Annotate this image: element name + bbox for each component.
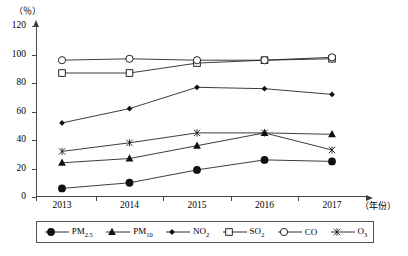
legend-swatch-O3 xyxy=(329,226,357,238)
x-tick xyxy=(36,197,37,201)
legend-item-CO[interactable]: CO xyxy=(276,226,318,238)
marker-filled-circle xyxy=(261,156,269,164)
y-tick-label: 100 xyxy=(12,48,26,61)
y-tick-label: 60 xyxy=(17,105,27,118)
marker-filled-circle xyxy=(47,228,55,236)
marker-filled-circle xyxy=(126,179,134,187)
x-tick xyxy=(96,197,97,201)
marker-open-circle xyxy=(280,228,287,235)
marker-open-circle xyxy=(126,55,133,62)
marker-filled-diamond xyxy=(194,84,200,90)
marker-filled-diamond xyxy=(169,229,175,235)
series-PM2.5 xyxy=(58,156,336,192)
legend-swatch-CO xyxy=(276,226,304,238)
y-tick-label: 40 xyxy=(17,133,27,146)
x-axis-title: （年份） xyxy=(360,199,396,212)
x-tick xyxy=(231,197,232,201)
plot-area: 020406080100120 20132014201520162017 xyxy=(36,26,366,197)
series-CO xyxy=(58,54,335,64)
marker-open-square xyxy=(59,70,66,77)
marker-filled-circle xyxy=(193,166,201,174)
y-tick-label: 120 xyxy=(12,19,26,32)
legend-swatch-SO2 xyxy=(221,226,249,238)
x-tick-label: 2013 xyxy=(53,200,72,210)
legend-item-O3[interactable]: O3 xyxy=(329,226,368,238)
x-tick-label: 2014 xyxy=(120,200,139,210)
legend-swatch-NO2 xyxy=(164,226,192,238)
x-tick-label: 2016 xyxy=(255,200,274,210)
legend-item-NO2[interactable]: NO2 xyxy=(164,226,209,238)
series-line xyxy=(62,87,332,123)
y-tick-label: 80 xyxy=(17,76,27,89)
marker-filled-diamond xyxy=(329,92,335,98)
series-NO2 xyxy=(59,84,335,125)
legend-item-PM2.5[interactable]: PM2.5 xyxy=(43,226,93,238)
marker-open-circle xyxy=(58,57,65,64)
series-layer xyxy=(36,26,366,197)
x-tick-label: 2017 xyxy=(323,200,342,210)
marker-open-square xyxy=(225,229,232,236)
legend-item-SO2[interactable]: SO2 xyxy=(221,226,265,238)
legend-label-PM10: PM10 xyxy=(133,226,153,238)
marker-open-circle xyxy=(261,57,268,64)
legend-swatch-PM2.5 xyxy=(43,226,71,238)
marker-filled-circle xyxy=(328,157,336,165)
y-tick-label: 20 xyxy=(17,162,27,175)
legend-label-O3: O3 xyxy=(358,226,368,238)
marker-open-square xyxy=(126,70,133,77)
marker-filled-diamond xyxy=(262,86,268,92)
marker-filled-circle xyxy=(58,185,66,193)
x-tick xyxy=(163,197,164,201)
marker-open-circle xyxy=(328,54,335,61)
chart-legend: PM2.5PM10NO2SO2COO3 xyxy=(36,221,374,243)
legend-label-PM2.5: PM2.5 xyxy=(72,226,93,238)
legend-swatch-PM10 xyxy=(104,226,132,238)
marker-open-circle xyxy=(193,57,200,64)
y-tick-label: 0 xyxy=(21,190,26,203)
chart-screenshot: （％） 020406080100120 20132014201520162017… xyxy=(0,0,408,256)
legend-label-NO2: NO2 xyxy=(193,226,209,238)
x-tick xyxy=(298,197,299,201)
x-tick-label: 2015 xyxy=(188,200,207,210)
series-line xyxy=(62,160,332,189)
legend-label-SO2: SO2 xyxy=(250,226,265,238)
marker-filled-triangle xyxy=(108,228,116,235)
marker-filled-diamond xyxy=(59,120,65,126)
marker-cross xyxy=(329,146,335,153)
legend-label-CO: CO xyxy=(305,227,318,237)
legend-item-PM10[interactable]: PM10 xyxy=(104,226,153,238)
y-axis-unit-label: （％） xyxy=(14,4,42,17)
marker-filled-triangle xyxy=(328,130,336,137)
marker-filled-diamond xyxy=(127,106,133,112)
